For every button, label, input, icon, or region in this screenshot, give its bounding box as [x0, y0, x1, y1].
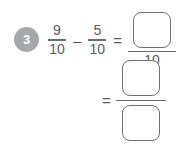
minus-operator: – — [73, 33, 81, 48]
fraction-answer-simplified — [116, 60, 166, 141]
problem-number-label: 3 — [23, 33, 30, 46]
fraction-operand-2-denominator: 10 — [90, 42, 106, 57]
equals-operator-simplified: = — [102, 93, 111, 108]
fraction-operand-2-numerator: 5 — [93, 23, 101, 38]
fraction-answer-simplified-bar — [116, 100, 166, 101]
fraction-operand-2: 5 10 — [88, 23, 106, 56]
fraction-operand-1-denominator: 10 — [49, 42, 65, 57]
problem-number-badge: 3 — [14, 27, 39, 52]
fraction-operand-1-numerator: 9 — [53, 23, 61, 38]
equals-operator-primary: = — [113, 33, 122, 48]
worksheet-problem: 3 9 10 – 5 10 = 10 = — [0, 0, 182, 147]
equation-row-simplified: = — [102, 60, 166, 141]
answer-box-denominator-simplified[interactable] — [122, 105, 160, 141]
answer-box-numerator-simplified[interactable] — [122, 60, 160, 96]
fraction-operand-1: 9 10 — [48, 23, 66, 56]
equation-row-primary: 9 10 – 5 10 = 10 — [48, 18, 176, 62]
answer-box-numerator-primary[interactable] — [133, 12, 171, 48]
